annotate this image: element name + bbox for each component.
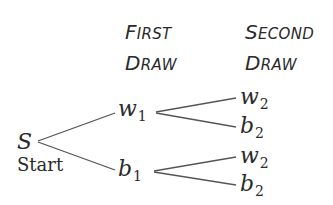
header-second-draw-line1: SECOND (245, 22, 314, 42)
header-second-draw-line2: DRAW (245, 53, 297, 73)
header-cap-letter: F (125, 20, 137, 44)
branch-w1-to-b2 (156, 113, 236, 127)
header-rest-text: RAW (141, 56, 177, 74)
node-w2-under-w1: w2 (240, 86, 269, 111)
header-first-draw-line1: FIRST (125, 22, 172, 42)
header-cap-letter: D (245, 51, 261, 75)
header-rest-text: IRST (137, 25, 172, 43)
node-letter: b (240, 171, 254, 196)
header-cap-letter: D (125, 51, 141, 75)
branch-start-to-w1 (38, 113, 115, 141)
branch-b1-to-w2 (154, 157, 236, 171)
header-rest-text: RAW (261, 56, 297, 74)
branch-b1-to-b2 (154, 172, 236, 185)
node-subscript: 1 (138, 108, 147, 124)
node-b2-under-b1: b2 (240, 173, 264, 198)
node-b1: b1 (118, 158, 142, 183)
node-letter: w (240, 143, 259, 168)
node-letter: w (118, 96, 137, 121)
node-subscript: 2 (260, 96, 269, 112)
node-w1: w1 (118, 98, 147, 123)
node-w2-under-b1: w2 (240, 145, 269, 170)
node-subscript: 2 (255, 125, 264, 141)
root-label-start: Start (17, 156, 63, 174)
header-cap-letter: S (245, 20, 258, 44)
header-first-draw-line2: DRAW (125, 53, 177, 73)
node-subscript: 1 (133, 168, 142, 184)
node-letter: b (118, 156, 132, 181)
probability-tree-diagram: FIRST DRAW SECOND DRAW S Start w1 b1 w2 … (0, 0, 333, 205)
node-subscript: 2 (260, 155, 269, 171)
node-subscript: 2 (255, 183, 264, 199)
node-letter: b (240, 113, 254, 138)
branch-w1-to-w2 (156, 98, 236, 112)
node-b2-under-w1: b2 (240, 115, 264, 140)
header-rest-text: ECOND (258, 25, 314, 43)
root-node-s: S (17, 131, 32, 153)
node-letter: w (240, 84, 259, 109)
root-symbol: S (17, 129, 32, 154)
